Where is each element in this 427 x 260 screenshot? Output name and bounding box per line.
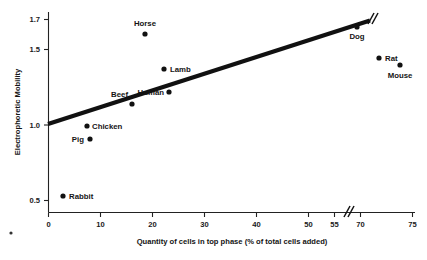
x-tick-label-3: 30: [200, 220, 208, 229]
point-label-rat: Rat: [385, 54, 398, 63]
point-label-horse: Horse: [134, 19, 157, 28]
x-tick-label-4: 40: [252, 220, 260, 229]
data-point-chicken: [84, 123, 89, 128]
plot-canvas: 0.5 1.0 1.5 1.7 0 10 20 30 40 50 55 70 7…: [0, 0, 427, 260]
y-tick-label-3: 1.7: [29, 15, 40, 24]
data-point-lamb: [161, 66, 166, 71]
y-axis-title: Electrophoretic Mobility: [13, 68, 22, 155]
stray-artifact-dot: [9, 231, 12, 234]
x-tick-label-0: 0: [46, 220, 50, 229]
x-tick-label-1: 10: [96, 220, 104, 229]
x-tick-label-8: 75: [408, 220, 417, 229]
data-point-rat: [376, 55, 381, 60]
point-label-rabbit: Rabbit: [69, 192, 94, 201]
data-point-rabbit: [60, 193, 65, 198]
data-points: [60, 24, 402, 198]
point-label-dog: Dog: [349, 32, 364, 41]
data-point-horse: [142, 31, 147, 36]
point-label-beef: Beef: [111, 90, 128, 99]
point-label-human: Human: [138, 88, 165, 97]
point-label-lamb: Lamb: [170, 65, 191, 74]
x-tick-label-2: 20: [148, 220, 156, 229]
scatter-plot-figure: 0.5 1.0 1.5 1.7 0 10 20 30 40 50 55 70 7…: [0, 0, 427, 260]
data-point-mouse: [397, 62, 402, 67]
regression-line: [48, 21, 370, 125]
data-point-beef: [129, 101, 134, 106]
x-axis-title: Quantity of cells in top phase (% of tot…: [137, 237, 328, 246]
y-tick-label-0: 0.5: [29, 196, 40, 205]
x-tick-label-6: 55: [330, 220, 339, 229]
data-point-pig: [87, 136, 92, 141]
y-tick-label-2: 1.5: [29, 45, 40, 54]
point-label-chicken: Chicken: [92, 122, 123, 131]
x-axis-ticks: [49, 213, 413, 218]
trend-line-break-icon: [368, 13, 378, 24]
y-tick-label-1: 1.0: [29, 121, 40, 130]
x-tick-label-7: 70: [356, 220, 364, 229]
x-tick-label-5: 50: [304, 220, 312, 229]
x-axis-break-icon: [344, 206, 354, 217]
point-label-pig: Pig: [72, 135, 84, 144]
point-label-mouse: Mouse: [388, 71, 413, 80]
data-point-human: [166, 89, 171, 94]
data-point-dog: [354, 24, 359, 29]
y-axis-ticks: [44, 20, 49, 201]
